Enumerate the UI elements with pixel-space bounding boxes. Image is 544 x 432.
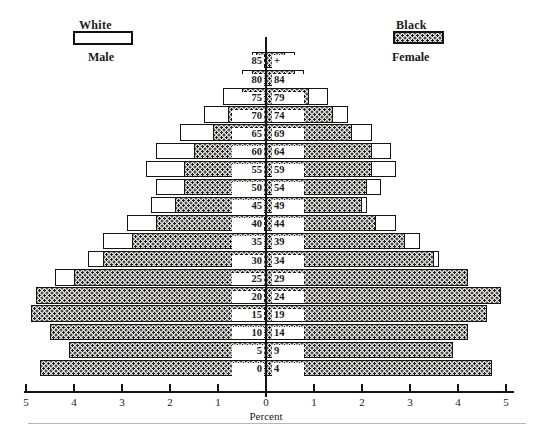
x-tick-3-2 <box>121 384 123 391</box>
x-tick-label-8: 3 <box>400 396 420 408</box>
age-label-left-65-69: 65 <box>232 128 264 141</box>
x-tick-4-1 <box>73 384 75 391</box>
x-tick-label-3: 2 <box>160 396 180 408</box>
age-label-right-40-44: 44 <box>272 218 304 231</box>
age-label-right-85+: + <box>272 55 304 68</box>
age-label-right-10-14: 14 <box>272 327 304 340</box>
x-tick-3-8 <box>409 384 411 391</box>
x-tick-label-4: 1 <box>208 396 228 408</box>
age-label-right-60-64: 64 <box>272 146 304 159</box>
x-tick-label-5: 0 <box>256 396 276 408</box>
x-tick-label-6: 1 <box>304 396 324 408</box>
age-label-right-25-29: 29 <box>272 273 304 286</box>
x-tick-2-3 <box>169 384 171 391</box>
age-label-left-10-14: 10 <box>232 327 264 340</box>
age-label-left-85+: 85 <box>232 55 264 68</box>
age-label-right-5-9: 9 <box>272 345 304 358</box>
x-tick-label-0: 5 <box>16 396 36 408</box>
age-label-right-50-54: 54 <box>272 182 304 195</box>
age-label-right-30-34: 34 <box>272 255 304 268</box>
plot-area: 85+8084757970746569606455595054454940443… <box>0 0 544 432</box>
age-label-left-20-24: 20 <box>232 291 264 304</box>
age-label-right-15-19: 19 <box>272 309 304 322</box>
x-tick-1-4 <box>217 384 219 391</box>
age-label-left-15-19: 15 <box>232 309 264 322</box>
center-axis-line <box>265 37 267 397</box>
age-label-left-60-64: 60 <box>232 146 264 159</box>
x-tick-label-2: 3 <box>112 396 132 408</box>
age-label-left-25-29: 25 <box>232 273 264 286</box>
x-tick-5-10 <box>505 384 507 391</box>
age-label-right-70-74: 74 <box>272 110 304 123</box>
age-label-left-40-44: 40 <box>232 218 264 231</box>
bar-black-male-15-19 <box>31 305 266 321</box>
age-label-left-75-79: 75 <box>232 92 264 105</box>
x-tick-4-9 <box>457 384 459 391</box>
age-label-left-80-84: 80 <box>232 74 264 87</box>
x-tick-1-6 <box>313 384 315 391</box>
x-tick-label-7: 2 <box>352 396 372 408</box>
age-label-right-45-49: 49 <box>272 200 304 213</box>
age-label-right-80-84: 84 <box>272 74 304 87</box>
age-label-left-70-74: 70 <box>232 110 264 123</box>
population-pyramid-chart: White Black Male Female 85+8084757970746… <box>0 0 544 432</box>
x-tick-label-9: 4 <box>448 396 468 408</box>
x-tick-label-10: 5 <box>496 396 516 408</box>
age-label-right-55-59: 59 <box>272 164 304 177</box>
age-label-left-45-49: 45 <box>232 200 264 213</box>
age-label-right-0-4: 4 <box>272 363 304 376</box>
age-label-right-75-79: 79 <box>272 92 304 105</box>
age-label-left-50-54: 50 <box>232 182 264 195</box>
age-label-left-55-59: 55 <box>232 164 264 177</box>
x-tick-2-7 <box>361 384 363 391</box>
x-tick-0-5 <box>265 384 267 391</box>
x-tick-5-0 <box>25 384 27 391</box>
age-label-left-0-4: 0 <box>232 363 264 376</box>
bottom-rule <box>28 423 526 424</box>
x-tick-label-1: 4 <box>64 396 84 408</box>
x-axis-line <box>24 391 514 393</box>
age-label-left-35-39: 35 <box>232 236 264 249</box>
age-label-left-30-34: 30 <box>232 255 264 268</box>
age-label-right-20-24: 24 <box>272 291 304 304</box>
age-label-right-35-39: 39 <box>272 236 304 249</box>
age-label-left-5-9: 5 <box>232 345 264 358</box>
age-label-right-65-69: 69 <box>272 128 304 141</box>
x-axis-title: Percent <box>216 410 316 422</box>
